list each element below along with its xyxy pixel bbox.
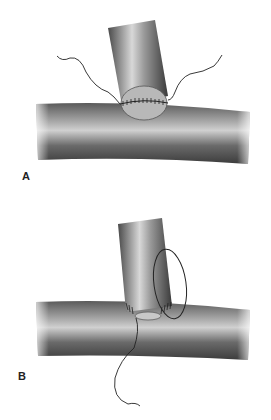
donor-vessel-b <box>118 218 172 312</box>
anastomosis-opening-b <box>135 312 161 320</box>
anastomosis-opening-a <box>121 86 167 120</box>
panel-a-illustration <box>36 20 250 164</box>
panel-b-illustration <box>36 218 250 406</box>
panel-label-b: B <box>18 370 26 382</box>
panel-label-a: A <box>22 170 30 182</box>
suture-tail-left-a <box>57 56 120 104</box>
suture-tail-right-a <box>168 55 222 100</box>
anastomosis-figure <box>0 0 271 420</box>
